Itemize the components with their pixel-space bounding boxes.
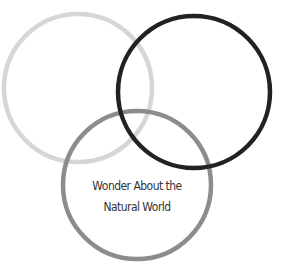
label-line-2: Natural World [73, 196, 202, 217]
circle-top-right [118, 16, 270, 168]
label-line-1: Wonder About the [73, 175, 202, 196]
circle-bottom-label: Wonder About the Natural World [73, 175, 202, 217]
venn-diagram: Wonder About the Natural World [0, 0, 282, 265]
venn-svg [0, 0, 282, 265]
